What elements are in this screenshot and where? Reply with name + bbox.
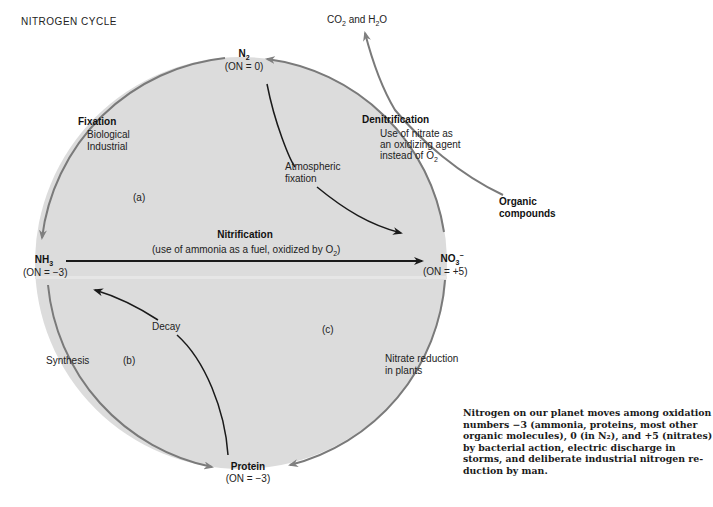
region-a-label: (a) <box>133 192 145 204</box>
nh3-oxidation-number: (ON = −3) <box>23 267 67 279</box>
diagram-title: NITROGEN CYCLE <box>21 16 117 28</box>
nh3-formula: NH <box>35 254 49 265</box>
region-c-label: (c) <box>322 324 334 336</box>
and-h-text: and H <box>346 14 375 25</box>
no3-subscript: 3 <box>456 259 460 266</box>
no3-oxidation-number: (ON = +5) <box>423 266 467 278</box>
nitrification-description: (use of ammonia as a fuel, oxidized by O… <box>152 244 340 256</box>
organic-compounds-line1: Organic <box>499 196 537 208</box>
instead-of-text: instead of O <box>380 150 434 161</box>
nitrate-reduction-line2: in plants <box>385 365 422 377</box>
fixation-industrial: Industrial <box>87 141 128 153</box>
fold-band <box>35 276 447 279</box>
co2-h2o-label: CO2 and H2O <box>327 14 387 26</box>
nitrification-title: Nitrification <box>200 229 290 241</box>
fixation-title: Fixation <box>78 116 116 128</box>
protein-node-label: Protein <box>218 461 278 473</box>
co2-text: CO <box>327 14 342 25</box>
n2-node-formula: N2 <box>228 48 260 60</box>
nitrate-reduction-line1: Nitrate reduction <box>385 353 458 365</box>
no3-formula: NO <box>441 253 456 264</box>
no3-charge: − <box>459 252 463 259</box>
no3-node-formula: NO3− <box>434 253 470 265</box>
organic-compounds-line2: compounds <box>499 208 556 220</box>
fixation-biological: Biological <box>87 129 130 141</box>
nh3-node-formula: NH3 <box>28 254 60 266</box>
protein-oxidation-number: (ON = −3) <box>213 473 283 485</box>
denitrification-title: Denitrification <box>362 114 429 126</box>
atmospheric-fixation-line2: fixation <box>285 173 317 185</box>
denitrification-line3: instead of O2 <box>380 150 438 162</box>
nitrification-desc-close: ) <box>337 244 340 255</box>
n2-oxidation-number: (ON = 0) <box>214 61 274 73</box>
synthesis-label: Synthesis <box>46 355 89 367</box>
n2-subscript: 2 <box>246 54 250 61</box>
o-text: O <box>379 14 387 25</box>
nh3-subscript: 3 <box>49 260 53 267</box>
n2-formula: N <box>238 48 245 59</box>
region-b-label: (b) <box>123 355 135 367</box>
o2-subscript: 2 <box>434 156 438 163</box>
figure-caption: Nitrogen on our planet moves among oxida… <box>463 407 713 476</box>
decay-label: Decay <box>152 321 180 333</box>
nitrification-desc-text: (use of ammonia as a fuel, oxidized by O <box>152 244 333 255</box>
atmospheric-fixation-line1: Atmospheric <box>285 161 341 173</box>
